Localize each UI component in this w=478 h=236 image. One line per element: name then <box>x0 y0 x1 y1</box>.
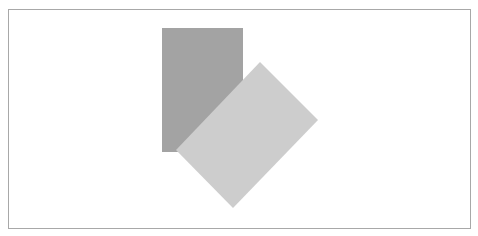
diagram-canvas <box>0 0 478 236</box>
